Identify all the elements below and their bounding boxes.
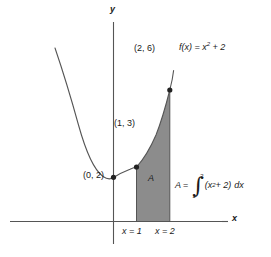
- integrand-suffix: + 2): [216, 180, 232, 190]
- integral-lower-limit: 1: [192, 193, 195, 199]
- integral-sign-group: ∫ 2 1: [192, 175, 203, 197]
- point-marker-1-3: [134, 164, 139, 169]
- point-marker-0-2: [111, 175, 116, 180]
- integral-equals: =: [183, 180, 188, 190]
- function-label-suffix: + 2: [210, 42, 225, 52]
- integral-expression: A = ∫ 2 1 (x2 + 2) dx: [175, 174, 244, 196]
- x-axis-label: x: [232, 214, 237, 223]
- integral-upper-limit: 2: [200, 173, 203, 179]
- tick-label-x1: x = 1: [122, 227, 142, 236]
- y-axis-label: y: [110, 5, 115, 14]
- point-label-0-2: (0, 2): [83, 171, 104, 180]
- tick-label-x2: x = 2: [155, 227, 175, 236]
- area-letter-label: A: [148, 174, 154, 183]
- point-label-1-3: (1, 3): [114, 119, 135, 128]
- differential-dx: dx: [234, 180, 244, 190]
- point-label-2-6: (2, 6): [134, 44, 155, 53]
- point-marker-2-6: [167, 87, 172, 92]
- function-label: f(x) = x2 + 2: [179, 41, 225, 52]
- function-label-prefix: f(x) = x: [179, 42, 207, 52]
- figure-container: y x f(x) = x2 + 2 (0, 2) (1, 3) (2, 6) A…: [0, 0, 271, 257]
- plot-canvas: [0, 0, 271, 257]
- integral-lhs: A: [175, 180, 181, 190]
